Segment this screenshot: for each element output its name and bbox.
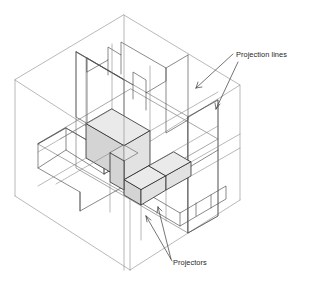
right-panel-outline	[188, 100, 218, 233]
glass-box-bottom-left-edge	[15, 196, 130, 270]
annotation-projectors: Projectors	[146, 207, 207, 267]
projector-to-left-c	[56, 153, 110, 184]
projection-lines-label: Projection lines	[236, 50, 287, 59]
diagram-root: Projection lines Projectors	[0, 0, 310, 283]
central-object-group	[86, 109, 191, 205]
back-panel-right-top	[166, 55, 188, 68]
left-view-inner-ridge-b	[38, 150, 66, 168]
profile-plane-outline	[188, 100, 218, 233]
projection-lines-leader-1	[196, 54, 233, 88]
back-panel-right-wall	[166, 55, 188, 133]
projectors-leader-1	[146, 216, 172, 261]
isometric-projection-diagram: Projection lines Projectors	[0, 0, 310, 283]
projectors-label: Projectors	[173, 258, 207, 267]
projection-lines-leader-2	[216, 62, 238, 109]
projector-to-right-c	[191, 134, 240, 162]
right-panel-mid-line	[188, 150, 218, 168]
annotation-projection-lines: Projection lines	[196, 50, 287, 109]
projectors-arrowhead-1	[146, 216, 151, 222]
back-panel-notch-outline	[87, 42, 166, 93]
right-projected-view	[188, 100, 218, 233]
projector-to-right-a	[150, 92, 218, 131]
